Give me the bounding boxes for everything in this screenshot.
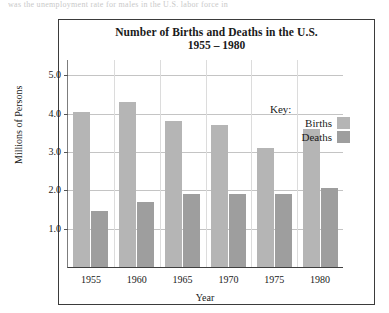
x-tick-label: 1975 xyxy=(264,274,284,285)
y-tick-label: 1.0 xyxy=(49,224,62,234)
x-tick-label: 1970 xyxy=(218,274,238,285)
legend-swatch-deaths-icon xyxy=(337,131,350,143)
x-axis-title: Year xyxy=(67,292,343,303)
y-tick-mark xyxy=(64,114,68,115)
x-gridline xyxy=(251,60,252,267)
y-tick-label: 2.0 xyxy=(49,185,62,195)
legend-item-deaths: Deaths xyxy=(268,130,350,144)
y-tick-mark xyxy=(64,229,68,230)
legend-item-births: Births xyxy=(268,116,350,130)
bar-deaths-1960 xyxy=(137,202,154,267)
plot-area: 1.02.03.04.05.0195519601965197019751980 xyxy=(67,60,343,268)
bar-deaths-1980 xyxy=(321,188,338,267)
chart-subtitle: 1955 – 1980 xyxy=(58,39,375,52)
x-gridline xyxy=(160,60,161,267)
legend-label-deaths: Deaths xyxy=(301,131,332,144)
y-tick-mark xyxy=(64,75,68,76)
bar-births-1955 xyxy=(73,112,90,267)
y-tick-mark xyxy=(64,152,68,153)
y-tick-mark xyxy=(64,190,68,191)
y-tick-label: 5.0 xyxy=(49,70,62,80)
bar-births-1965 xyxy=(165,121,182,267)
bar-deaths-1955 xyxy=(91,211,108,267)
x-gridline xyxy=(114,60,115,267)
scan-top-cut-text: was the unemployment rate for males in t… xyxy=(8,0,382,9)
x-gridline xyxy=(297,60,298,267)
x-tick-label: 1965 xyxy=(173,274,193,285)
bar-deaths-1975 xyxy=(275,194,292,267)
x-tick-label: 1980 xyxy=(310,274,330,285)
bar-births-1975 xyxy=(257,148,274,267)
legend-swatch-births-icon xyxy=(337,117,350,129)
x-tick-label: 1960 xyxy=(127,274,147,285)
chart-title: Number of Births and Deaths in the U.S. xyxy=(58,26,375,39)
bar-births-1980 xyxy=(303,129,320,267)
y-tick-label: 4.0 xyxy=(49,109,62,119)
bar-deaths-1970 xyxy=(229,194,246,267)
y-axis-title: Millions of Persons xyxy=(14,86,24,164)
bar-births-1970 xyxy=(211,125,228,267)
legend-title: Key: xyxy=(268,103,350,116)
bar-deaths-1965 xyxy=(183,194,200,267)
x-gridline xyxy=(206,60,207,267)
legend-label-births: Births xyxy=(305,117,332,130)
x-tick-label: 1955 xyxy=(81,274,101,285)
bar-births-1960 xyxy=(119,102,136,267)
y-tick-label: 3.0 xyxy=(49,147,62,157)
chart-legend: Key: Births Deaths xyxy=(268,103,350,144)
